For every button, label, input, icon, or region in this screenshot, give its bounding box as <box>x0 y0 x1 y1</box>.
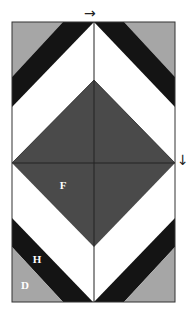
label-Gr: Gr <box>39 224 53 236</box>
label-D: D <box>21 279 29 291</box>
quilt-block-diagram: F Gr G H D <box>0 0 194 316</box>
label-G: G <box>135 224 144 236</box>
label-H: H <box>33 253 42 265</box>
label-F: F <box>60 179 67 191</box>
top-arrow-icon: → <box>84 6 96 20</box>
right-arrow-icon: ↓ <box>177 153 189 167</box>
